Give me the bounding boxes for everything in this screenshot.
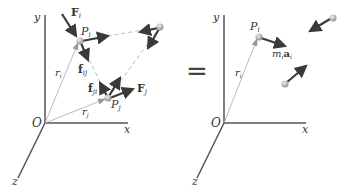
force-fji-arrow [100,83,107,96]
particle-Pi [256,34,263,41]
right-panel: y x z O Pi miai ri [191,11,337,188]
Pi-label: Pi [249,20,260,34]
left-panel: y x z O Fi Pi fij fji Fj Pj ri rj [11,6,164,188]
x-axis-label: x [302,123,309,136]
rj-label: rj [82,106,89,119]
z-axis [197,123,224,178]
ri-label: ri [55,67,62,79]
z-axis-label: z [191,175,198,188]
position-vector-rj [45,99,105,123]
internal-force-arrow [109,78,120,96]
y-axis-label: y [212,11,220,24]
Pj-label: Pj [110,98,121,112]
particle-Pi [77,38,84,45]
Pi-label: Pi [80,25,91,39]
particle-j [282,81,289,88]
origin-label: O [32,116,42,130]
equals-sign: = [186,56,208,86]
position-vector-ri [224,39,257,123]
diagram-canvas: y x z O Fi Pi fij fji Fj Pj ri rj = y x … [0,0,344,192]
x-axis-label: x [124,123,131,136]
ri-label: ri [235,67,242,79]
particle-third [330,15,337,22]
mi-ai-arrow [261,38,285,46]
y-axis-label: y [33,11,41,24]
Fj-label: Fj [137,82,148,96]
acceleration-arrow [310,19,330,31]
z-axis-label: z [11,175,18,188]
origin-label: O [211,116,221,130]
dashed-link [108,27,160,98]
internal-force-arrow [148,29,159,48]
particle-third [157,24,164,31]
force-fij-arrow [81,43,88,60]
fij-label: fij [78,63,88,77]
fji-label: fji [88,82,97,96]
Fi-label: Fi [71,6,81,20]
position-vector-ri [45,43,78,123]
mi-ai-label: miai [272,48,292,60]
acceleration-arrow [286,66,306,83]
z-axis [18,123,45,178]
